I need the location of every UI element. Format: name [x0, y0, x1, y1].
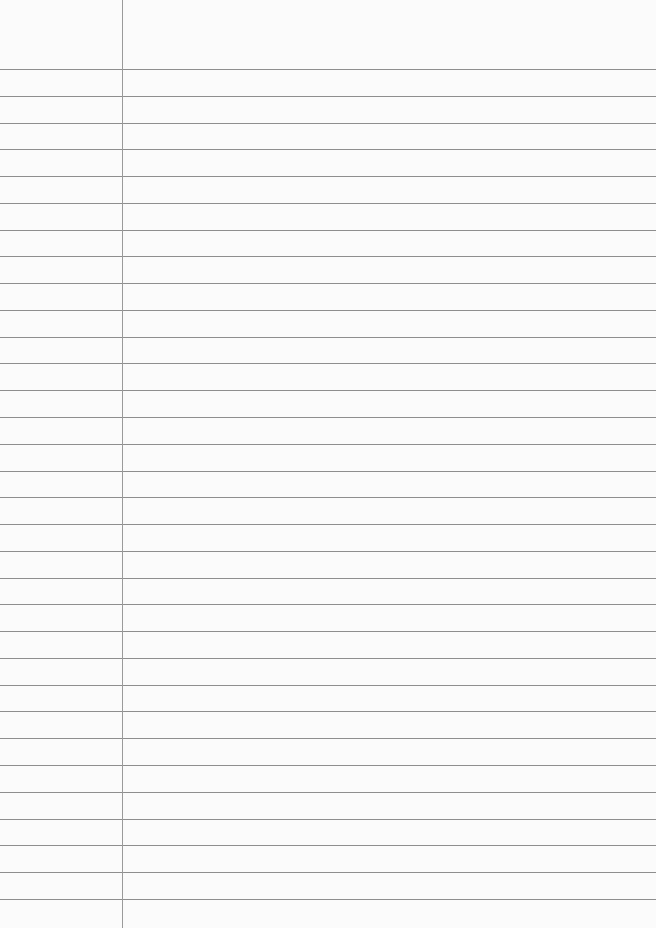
ruled-line [0, 631, 656, 632]
ruled-line [0, 444, 656, 445]
ruled-line [0, 471, 656, 472]
ruled-line [0, 845, 656, 846]
ruled-line [0, 96, 656, 97]
ruled-line [0, 123, 656, 124]
ruled-line [0, 310, 656, 311]
ruled-line [0, 390, 656, 391]
ruled-line [0, 230, 656, 231]
margin-line [122, 0, 123, 928]
ruled-line [0, 604, 656, 605]
ruled-line [0, 203, 656, 204]
ruled-line [0, 524, 656, 525]
ruled-line [0, 363, 656, 364]
ruled-line [0, 899, 656, 900]
ruled-line [0, 578, 656, 579]
ruled-line [0, 792, 656, 793]
ruled-line [0, 872, 656, 873]
ruled-line [0, 658, 656, 659]
ruled-line [0, 417, 656, 418]
ruled-line [0, 711, 656, 712]
ruled-line [0, 738, 656, 739]
ruled-line [0, 819, 656, 820]
ruled-line [0, 149, 656, 150]
ruled-line [0, 685, 656, 686]
ruled-line [0, 176, 656, 177]
ruled-line [0, 256, 656, 257]
ruled-line [0, 765, 656, 766]
ruled-line [0, 69, 656, 70]
lined-paper-page [0, 0, 656, 928]
ruled-line [0, 497, 656, 498]
ruled-line [0, 283, 656, 284]
ruled-line [0, 337, 656, 338]
ruled-line [0, 551, 656, 552]
